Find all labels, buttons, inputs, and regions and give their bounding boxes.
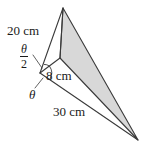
half-theta-numerator: θ: [20, 43, 28, 56]
leader-line-half-theta: [33, 55, 42, 68]
geometry-figure: 20 cm 8 cm 30 cm θ θ 2: [0, 0, 141, 147]
label-angle-half-theta: θ 2: [20, 43, 28, 70]
edge-20cm: [40, 8, 63, 73]
leader-line-theta: [35, 78, 43, 88]
half-theta-denominator: 2: [20, 58, 28, 71]
label-angle-theta: θ: [29, 88, 35, 101]
label-side-30cm: 30 cm: [53, 105, 85, 118]
label-side-8cm: 8 cm: [46, 69, 72, 82]
angle-arc-half-theta: [44, 64, 49, 66]
label-side-20cm: 20 cm: [7, 24, 39, 37]
